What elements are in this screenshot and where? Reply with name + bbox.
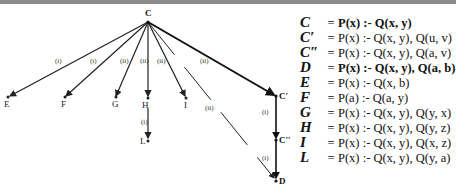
svg-text:(ii): (ii) [157,57,166,65]
svg-text:(i): (i) [55,57,62,65]
refinement-graph: (i) (i) (ii) (ii) (ii) (ii) (ii) (i) (i)… [0,0,300,188]
svg-text:(i): (i) [90,57,97,65]
definition-f: F = P(a) :- Q(a, y) [300,90,456,105]
svg-text:F: F [61,99,66,109]
svg-text:(i): (i) [262,154,269,162]
node-f: F [61,96,67,110]
node-g: G [112,96,119,110]
definition-l: L = P(x) :- Q(x, y), Q(y, a) [300,150,456,165]
svg-text:G: G [112,99,119,109]
node-c: C [145,8,152,24]
svg-text:(ii): (ii) [205,104,214,112]
definition-e: E = P(x) :- Q(x, b) [300,75,456,90]
definition-c-prime: C′ = P(x) :- Q(x, y), Q(u, v) [300,30,456,45]
svg-text:(i): (i) [141,118,148,126]
node-e: E [4,96,10,110]
definition-d: D = P(x) :- Q(x, y), Q(a, b) [300,60,456,75]
definition-c-double-prime: C″ = P(x) :- Q(x, y), Q(a, v) [300,45,456,60]
svg-text:E: E [4,99,10,109]
definition-c: C = P(x) :- Q(x, y) [300,15,456,30]
edge-c1-c2: (i) [262,96,276,138]
svg-text:C: C [145,8,152,18]
svg-text:(i): (i) [262,108,269,116]
edge-c-h: (ii) [140,22,149,96]
clause-definitions: C = P(x) :- Q(x, y) C′ = P(x) :- Q(x, y)… [300,15,456,165]
definition-g: G = P(x) :- Q(x, y), Q(y, x) [300,105,456,120]
definition-h: H = P(x) :- Q(x, y), Q(y, z) [300,120,456,135]
svg-text:(ii): (ii) [200,57,209,65]
svg-text:(ii): (ii) [120,57,129,65]
svg-text:L: L [140,136,146,146]
edge-c-d-dashed: (ii) [148,22,274,178]
definition-i: I = P(x) :- Q(x, y), Q(x, z) [300,135,456,150]
svg-text:D: D [279,176,286,186]
svg-text:H: H [142,100,149,110]
svg-text:C'': C'' [279,135,291,145]
node-i: I [184,97,188,111]
node-c-double-prime: C'' [274,135,290,145]
svg-text:(ii): (ii) [140,57,149,65]
edge-h-l: (i) [141,108,148,138]
svg-text:I: I [184,100,187,110]
svg-text:C': C' [279,91,288,101]
node-h: H [142,97,150,111]
